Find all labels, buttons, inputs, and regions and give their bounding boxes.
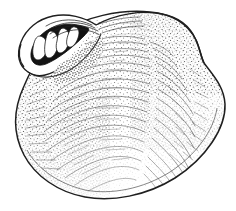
illustration-root (0, 0, 236, 211)
bivalve-shell-drawing (0, 0, 236, 211)
